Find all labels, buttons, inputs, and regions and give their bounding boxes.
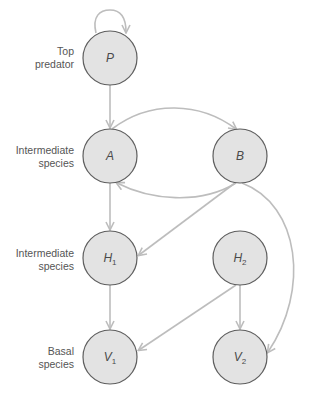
row-label-top-predator: Top predator	[35, 45, 74, 71]
node-label-V2: V2	[220, 350, 260, 369]
node-label-P: P	[90, 51, 130, 70]
node-label-H1: H1	[90, 251, 130, 270]
edge-P-self-loop	[95, 10, 126, 33]
row-label-line1: Intermediate	[16, 144, 74, 157]
row-label-line2: predator	[35, 58, 74, 71]
node-label-B: B	[220, 149, 260, 168]
row-label-line2: species	[16, 157, 74, 170]
row-label-line2: species	[38, 358, 74, 371]
row-label-intermediate-1: Intermediate species	[16, 144, 74, 170]
row-label-basal: Basal species	[38, 345, 74, 371]
node-label-H2: H2	[220, 251, 260, 270]
node-label-A: A	[90, 149, 130, 168]
node-label-V1: V1	[90, 350, 130, 369]
row-label-line2: species	[16, 260, 74, 273]
row-label-line1: Intermediate	[16, 247, 74, 260]
edge-A-to-B	[112, 108, 236, 129]
row-label-line1: Basal	[38, 345, 74, 358]
row-label-line1: Top	[35, 45, 74, 58]
row-label-intermediate-2: Intermediate species	[16, 247, 74, 273]
